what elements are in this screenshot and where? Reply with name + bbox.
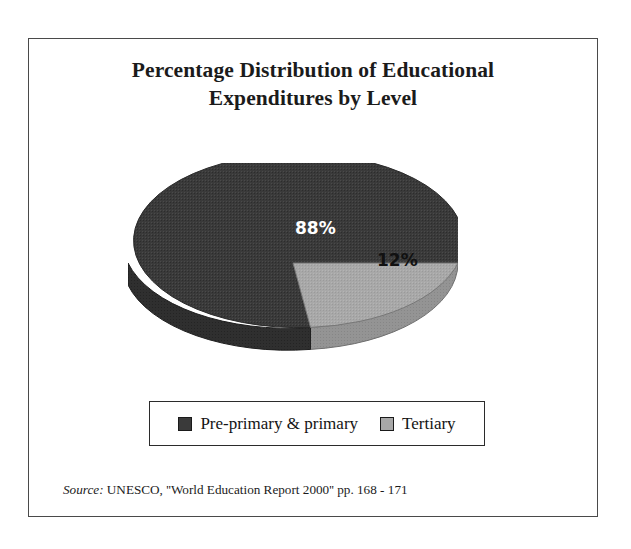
legend-label-primary: Pre-primary & primary: [200, 414, 358, 434]
figure-frame: Percentage Distribution of Educational E…: [28, 38, 598, 517]
legend-label-tertiary: Tertiary: [402, 414, 456, 434]
source-note: Source: UNESCO, ''World Education Report…: [63, 482, 408, 498]
legend-swatch-tertiary: [380, 417, 394, 431]
legend-item-primary[interactable]: Pre-primary & primary: [178, 414, 358, 434]
pie-data-label-tertiary: 12%: [377, 250, 418, 270]
pie-chart: 88% 12%: [29, 149, 599, 374]
pie-data-label-primary: 88%: [295, 218, 336, 238]
page-title: Percentage Distribution of Educational E…: [29, 56, 597, 112]
source-label: Source:: [63, 482, 104, 497]
chart-legend: Pre-primary & primary Tertiary: [149, 401, 485, 446]
legend-item-tertiary[interactable]: Tertiary: [380, 414, 456, 434]
chart-title-line-1: Percentage Distribution of Educational: [29, 56, 597, 84]
legend-swatch-primary: [178, 417, 192, 431]
chart-title-line-2: Expenditures by Level: [29, 84, 597, 112]
source-text: UNESCO, ''World Education Report 2000'' …: [104, 482, 408, 497]
